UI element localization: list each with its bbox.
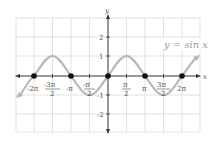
y-axis-label: y xyxy=(104,7,110,15)
x-tick-pi2-den: 2 xyxy=(124,90,128,98)
sine-graph: y x 2 1 -1 -2 -2π -3π 2 -π -π 2 π 2 π 3π… xyxy=(0,0,219,142)
x-tick-neg-3pi2-den: 2 xyxy=(50,90,54,98)
point-origin xyxy=(105,73,111,79)
x-tick-3pi2-num: 3π xyxy=(157,81,166,89)
x-tick-2pi: 2π xyxy=(177,85,186,93)
point-neg-pi xyxy=(68,73,74,79)
point-neg-2pi xyxy=(31,73,37,79)
x-tick-3pi2-den: 2 xyxy=(161,90,165,98)
x-tick-neg-pi2-den: 2 xyxy=(87,90,91,98)
y-axis-arrow-down-icon xyxy=(106,129,110,134)
x-tick-neg-3pi2-num: -3π xyxy=(44,81,56,89)
y-tick-neg1: -1 xyxy=(97,92,104,100)
x-axis-label: x xyxy=(203,73,207,81)
x-tick-neg-2pi: -2π xyxy=(27,85,39,93)
point-2pi xyxy=(179,73,185,79)
x-tick-pi2-num: π xyxy=(123,81,128,89)
point-pi xyxy=(142,73,148,79)
y-tick-neg2: -2 xyxy=(97,111,104,119)
x-tick-neg-pi: -π xyxy=(66,85,73,93)
y-tick-1: 1 xyxy=(99,53,103,61)
equation-label: y = sin x xyxy=(163,39,208,50)
y-tick-2: 2 xyxy=(99,34,103,42)
x-tick-neg-pi2-num: -π xyxy=(83,81,90,89)
x-tick-pi: π xyxy=(142,85,147,93)
